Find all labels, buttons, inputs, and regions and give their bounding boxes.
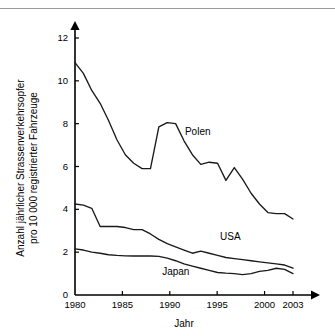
x-tick-label: 2000 xyxy=(254,299,275,310)
x-tick-label: 1995 xyxy=(207,299,228,310)
series-line-polen xyxy=(75,63,293,219)
x-tick-label: 2003 xyxy=(282,299,303,310)
y-tick-label: 12 xyxy=(57,32,68,43)
x-axis-label: Jahr xyxy=(174,318,194,329)
chart-figure: Anzahl jährlicher Strassenverkehrsopfer … xyxy=(0,0,335,336)
y-tick-label: 4 xyxy=(63,203,68,214)
y-axis-label-line1: Anzahl jährlicher Strassenverkehrsopfer xyxy=(15,79,26,257)
data-series xyxy=(75,63,293,275)
x-tick-label: 1990 xyxy=(159,299,180,310)
y-axis-label-line2: pro 10 000 registrierter Fahrzeuge xyxy=(28,92,39,244)
x-tick-label: 1985 xyxy=(112,299,133,310)
axes xyxy=(70,21,320,300)
y-tick-label: 6 xyxy=(63,161,68,172)
series-label-usa: USA xyxy=(220,231,241,242)
x-tick-label: 1980 xyxy=(64,299,85,310)
series-line-usa xyxy=(75,204,293,268)
series-labels: PolenUSAJapan xyxy=(162,126,241,276)
series-label-japan: Japan xyxy=(162,266,189,277)
y-tick-label: 2 xyxy=(63,246,68,257)
line-chart: Anzahl jährlicher Strassenverkehrsopfer … xyxy=(0,0,335,336)
y-tick-label: 10 xyxy=(57,75,68,86)
y-tick-label: 8 xyxy=(63,118,68,129)
series-label-polen: Polen xyxy=(185,126,211,137)
